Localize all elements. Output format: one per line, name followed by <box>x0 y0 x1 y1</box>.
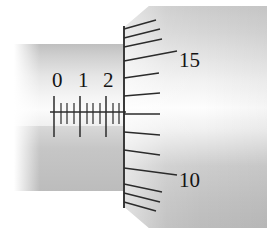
thimble-tick-9 <box>124 168 177 175</box>
thimble-tick-11 <box>124 193 160 202</box>
thimble-tick-4 <box>124 73 159 78</box>
sleeve-tick-group <box>50 96 126 137</box>
thimble-label-10: 10 <box>179 170 200 191</box>
scale-marks <box>0 0 273 234</box>
thimble-tick-0 <box>124 20 156 29</box>
sleeve-label-1: 1 <box>78 70 89 91</box>
thimble-tick-2 <box>124 39 162 47</box>
thimble-tick-12 <box>124 202 156 211</box>
thimble-tick-group <box>124 20 177 211</box>
thimble-label-15: 15 <box>179 50 200 71</box>
sleeve-label-0: 0 <box>52 70 63 91</box>
micrometer-figure: 0 1 2 15 10 <box>0 0 273 234</box>
thimble-tick-3 <box>124 51 177 61</box>
thimble-tick-8 <box>124 150 160 155</box>
thimble-tick-1 <box>124 29 160 38</box>
thimble-tick-7 <box>124 132 160 135</box>
sleeve-label-2: 2 <box>103 70 114 91</box>
thimble-tick-5 <box>124 93 160 96</box>
thimble-tick-10 <box>124 184 162 192</box>
